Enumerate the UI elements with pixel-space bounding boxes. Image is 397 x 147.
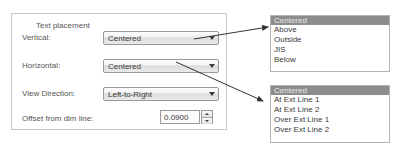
vertical-combobox-value: Centered <box>108 34 141 44</box>
chevron-down-icon[interactable] <box>209 92 215 96</box>
vertical-label: Vertical: <box>22 33 50 43</box>
vertical-list-option[interactable]: Outside <box>271 35 389 45</box>
vertical-list-option-label: JIS <box>274 45 286 54</box>
horizontal-label: Horizontal: <box>22 61 60 71</box>
offset-from-dim-line-input[interactable]: 0.0900 <box>160 110 200 124</box>
horizontal-combobox[interactable]: Centered <box>103 59 219 73</box>
triangle-up-glyph <box>205 113 209 115</box>
horizontal-list-option-label: Over Ext Line 2 <box>274 125 329 134</box>
horizontal-list-option-label: At Ext Line 1 <box>274 95 319 104</box>
chevron-down-icon[interactable] <box>209 36 215 40</box>
vertical-list-option-label: Centered <box>274 16 307 25</box>
vertical-list-option[interactable]: Above <box>271 25 389 35</box>
vertical-list-option-label: Below <box>274 55 296 64</box>
offset-from-dim-line-label: Offset from dim line: <box>22 114 93 124</box>
view-direction-combobox[interactable]: Left-to-Right <box>103 87 219 101</box>
groupbox-title: Text placement <box>32 21 94 31</box>
horizontal-combobox-value: Centered <box>108 62 141 72</box>
horizontal-list-option-label: Over Ext Line 1 <box>274 115 329 124</box>
vertical-list-option-label: Above <box>274 25 297 34</box>
vertical-list-option[interactable]: Centered <box>271 16 389 25</box>
triangle-down-glyph <box>205 120 209 122</box>
horizontal-list-option[interactable]: Over Ext Line 1 <box>271 115 389 125</box>
view-direction-label: View Direction: <box>22 89 75 99</box>
horizontal-list-option[interactable]: At Ext Line 1 <box>271 95 389 105</box>
offset-value: 0.0900 <box>164 113 188 123</box>
horizontal-list-option-label: At Ext Line 2 <box>274 105 319 114</box>
horizontal-list-option-label: Centered <box>274 86 307 95</box>
horizontal-list-option[interactable]: At Ext Line 2 <box>271 105 389 115</box>
vertical-list-option[interactable]: Below <box>271 55 389 65</box>
vertical-options-listbox[interactable]: CenteredAboveOutsideJISBelow <box>270 15 390 72</box>
vertical-list-option[interactable]: JIS <box>271 45 389 55</box>
chevron-down-icon[interactable] <box>209 64 215 68</box>
spinner-up-icon[interactable] <box>202 111 212 118</box>
horizontal-list-option[interactable]: Over Ext Line 2 <box>271 125 389 135</box>
vertical-combobox[interactable]: Centered <box>103 31 219 45</box>
view-direction-combobox-value: Left-to-Right <box>108 90 152 100</box>
spinner-down-icon[interactable] <box>202 118 212 124</box>
horizontal-options-listbox[interactable]: CenteredAt Ext Line 1At Ext Line 2Over E… <box>270 85 390 143</box>
vertical-list-option-label: Outside <box>274 35 302 44</box>
offset-stepper[interactable] <box>201 110 213 124</box>
horizontal-list-option[interactable]: Centered <box>271 86 389 95</box>
